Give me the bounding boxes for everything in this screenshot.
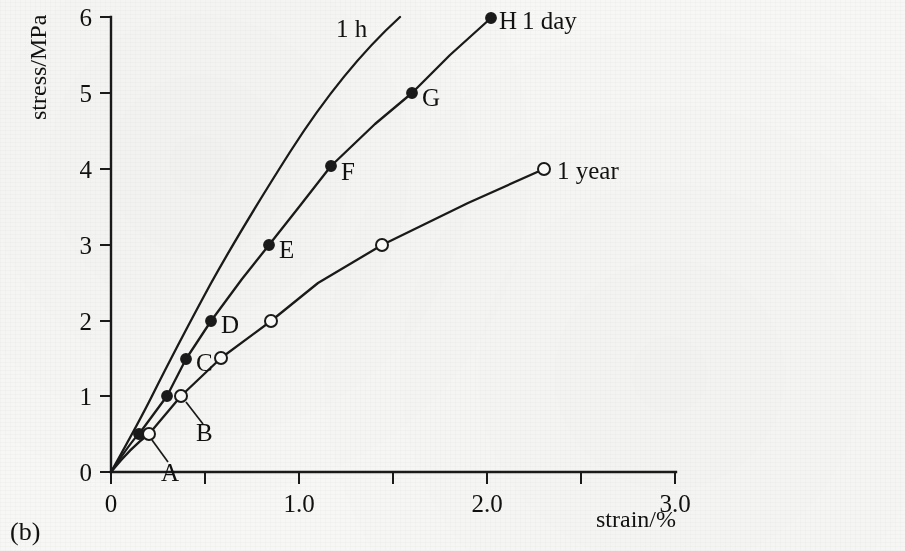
- y-tick-label-4: 4: [80, 156, 93, 183]
- y-tick-label-0: 0: [80, 459, 93, 486]
- point-label-a: A: [161, 459, 179, 486]
- y-tick-label-6: 6: [80, 4, 93, 31]
- markers-1year: [143, 163, 550, 440]
- point-label-d: D: [221, 311, 239, 338]
- data-point-c: [181, 354, 191, 364]
- series-label-1h: 1 h: [336, 15, 368, 42]
- data-point-1year-2-0: [265, 315, 277, 327]
- curve-1h: [111, 17, 400, 472]
- figure-panel: 0 1 2 3 4 5 6 0 1.0 2.0 3.0 stress/MPa s…: [0, 0, 905, 551]
- data-point-h: [486, 13, 496, 23]
- y-tick-label-1: 1: [80, 383, 93, 410]
- y-axis-tick-labels: 0 1 2 3 4 5 6: [80, 4, 93, 486]
- point-label-f: F: [341, 158, 355, 185]
- series-label-1year: 1 year: [557, 157, 619, 184]
- data-point-1day-1-0: [162, 391, 172, 401]
- stress-strain-chart: 0 1 2 3 4 5 6 0 1.0 2.0 3.0 stress/MPa s…: [0, 0, 905, 551]
- data-point-1year-4-0: [538, 163, 550, 175]
- point-label-e: E: [279, 236, 294, 263]
- x-tick-label-0: 0: [105, 490, 118, 517]
- data-point-e: [264, 240, 274, 250]
- x-tick-label-2: 2.0: [471, 490, 502, 517]
- data-point-a: [143, 428, 155, 440]
- y-tick-label-3: 3: [80, 232, 93, 259]
- markers-1day: [134, 13, 496, 439]
- series-label-1day: 1 day: [522, 7, 577, 34]
- point-label-c: C: [196, 349, 213, 376]
- point-labels: A B C D E F G H: [161, 7, 517, 486]
- panel-label: (b): [10, 517, 40, 546]
- series-labels: 1 h 1 day 1 year: [336, 7, 619, 184]
- x-axis-title: strain/%: [596, 506, 676, 532]
- y-axis-title: stress/MPa: [25, 14, 51, 120]
- data-point-1year-3-0: [376, 239, 388, 251]
- point-label-h: H: [499, 7, 517, 34]
- axes: [111, 17, 676, 472]
- x-tick-label-1: 1.0: [283, 490, 314, 517]
- data-point-f: [326, 161, 336, 171]
- y-tick-label-5: 5: [80, 80, 93, 107]
- y-tick-label-2: 2: [80, 308, 93, 335]
- y-axis-ticks: [100, 17, 111, 472]
- point-label-b: B: [196, 419, 213, 446]
- data-point-b: [175, 390, 187, 402]
- point-label-g: G: [422, 84, 440, 111]
- curve-1year: [111, 169, 544, 472]
- data-point-d: [206, 316, 216, 326]
- data-point-g: [407, 88, 417, 98]
- data-point-1year-1-5: [215, 352, 227, 364]
- x-axis-ticks: [111, 472, 675, 484]
